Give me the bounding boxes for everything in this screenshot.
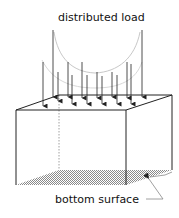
bottom-surface-pointer-arrow [149,179,163,199]
box-top-face [16,95,172,110]
distributed-load-label: distributed load [58,11,145,24]
bottom-surface [16,170,172,185]
diagram-canvas: distributed load bottom surface [0,0,179,218]
bottom-surface-label: bottom surface [55,193,139,206]
